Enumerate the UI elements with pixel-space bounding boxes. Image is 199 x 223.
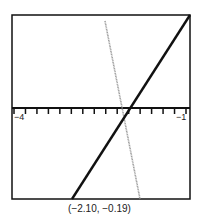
graph-canvas bbox=[0, 0, 199, 223]
gray-line bbox=[105, 21, 140, 199]
intersection-caption: (−2.10, −0.19) bbox=[0, 203, 199, 214]
x-tick-label-left: −4 bbox=[14, 112, 24, 122]
x-tick-label-right: −1 bbox=[176, 112, 186, 122]
